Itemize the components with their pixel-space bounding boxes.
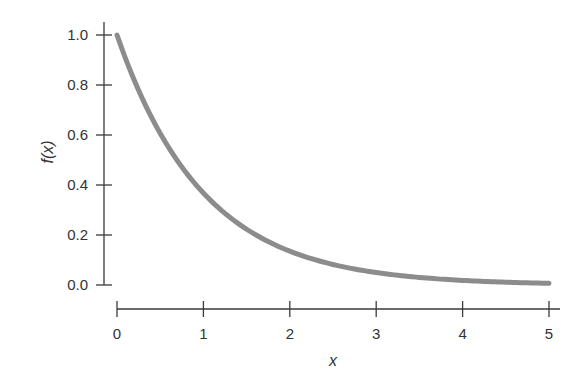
x-tick-label: 3	[372, 325, 380, 342]
y-axis-ticks: 0.00.20.40.60.81.0	[67, 26, 112, 293]
x-tick-label: 4	[458, 325, 466, 342]
y-axis-title: f(x)	[39, 140, 56, 163]
y-tick-label: 0.4	[67, 176, 88, 193]
x-axis: 012345 x	[113, 301, 560, 369]
y-tick-label: 0.2	[67, 226, 88, 243]
decay-curve	[117, 35, 549, 283]
x-tick-label: 1	[199, 325, 207, 342]
exponential-decay-chart: 0.00.20.40.60.81.0 f(x) 012345 x	[0, 0, 588, 391]
x-axis-title: x	[328, 352, 338, 369]
y-tick-label: 1.0	[67, 26, 88, 43]
x-tick-label: 0	[113, 325, 121, 342]
x-tick-label: 5	[545, 325, 553, 342]
y-tick-label: 0.8	[67, 76, 88, 93]
y-axis: 0.00.20.40.60.81.0 f(x)	[39, 22, 112, 293]
plot-area	[117, 35, 549, 283]
y-tick-label: 0.0	[67, 276, 88, 293]
x-tick-label: 2	[286, 325, 294, 342]
x-axis-ticks: 012345	[113, 301, 553, 342]
y-tick-label: 0.6	[67, 126, 88, 143]
